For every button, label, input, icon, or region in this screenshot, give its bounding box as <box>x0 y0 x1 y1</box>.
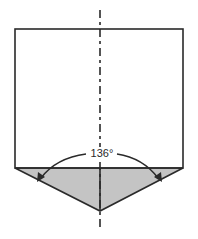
angle-label: 136° <box>91 147 114 159</box>
drill-point-diagram: 136° <box>0 0 198 239</box>
